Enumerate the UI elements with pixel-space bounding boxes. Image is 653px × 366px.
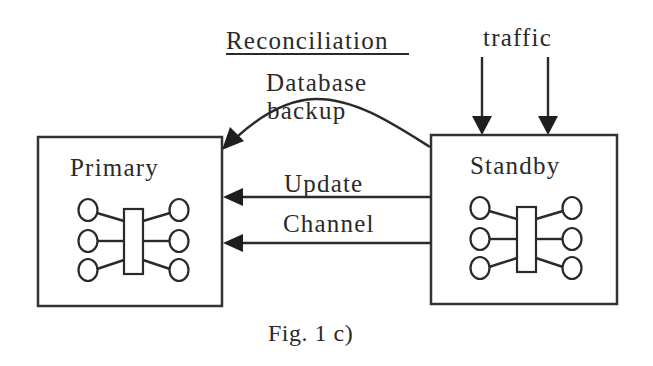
primary-network-icon [79,199,189,281]
update-arrowhead-icon [223,188,243,206]
channel-arrowhead-icon [223,234,243,252]
update-label: Update [284,170,363,197]
reconciliation-title-text: Reconciliation [226,27,389,54]
database-backup-arrowhead-icon [222,127,244,150]
database-backup-edge: Database backup [222,69,430,150]
reconciliation-title: Reconciliation [226,27,409,54]
reconciliation-diagram: Reconciliation traffic Database backup P… [0,0,653,366]
database-label: Database [266,69,367,96]
channel-label: Channel [283,210,375,237]
figure-caption: Fig. 1 c) [268,320,353,346]
standby-network-icon [471,197,582,279]
primary-label: Primary [70,154,159,181]
primary-node: Primary [38,137,222,306]
traffic-arrow-1-head-icon [472,116,492,135]
update-channel-edges: Update Channel [223,170,431,252]
traffic-input: traffic [472,24,558,135]
traffic-label: traffic [483,24,552,51]
traffic-arrow-2-head-icon [538,116,558,135]
standby-label: Standby [470,152,560,179]
standby-node: Standby [431,135,617,304]
